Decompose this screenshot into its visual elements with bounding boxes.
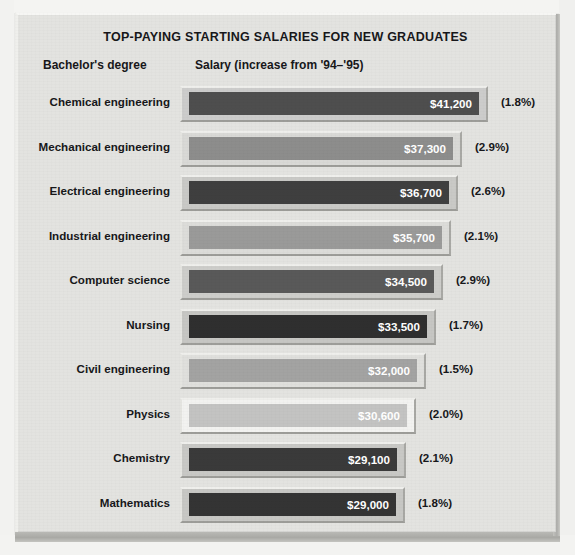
bar-value-label: $33,500 <box>378 320 420 333</box>
scan-margin-left <box>0 0 14 555</box>
bar-row-label: Mathematics <box>15 496 170 509</box>
bar: $30,600 <box>180 398 416 434</box>
bar-face: $35,700 <box>189 226 442 249</box>
bar-face: $37,300 <box>189 137 453 160</box>
bar-row: Computer science$34,500(2.9%) <box>15 260 556 305</box>
bar-row: Industrial engineering$35,700(2.1%) <box>15 216 556 261</box>
increase-percent-label: (1.8%) <box>501 95 535 108</box>
bar: $41,200 <box>180 86 488 122</box>
bar-rows: Chemical engineering$41,200(1.8%)Mechani… <box>15 82 556 527</box>
bar: $34,500 <box>180 264 443 300</box>
bar-row: Chemical engineering$41,200(1.8%) <box>15 82 556 127</box>
bar-value-label: $29,100 <box>348 453 390 466</box>
increase-percent-label: (1.8%) <box>418 496 452 509</box>
bar-row: Mathematics$29,000(1.8%) <box>15 483 556 528</box>
bar: $33,500 <box>180 309 436 345</box>
increase-percent-label: (2.9%) <box>456 273 490 286</box>
bar-face: $36,700 <box>189 181 449 204</box>
bar: $37,300 <box>180 131 462 167</box>
bar-row-label: Civil engineering <box>15 362 170 375</box>
bar-row-label: Mechanical engineering <box>15 140 170 153</box>
bar-value-label: $32,000 <box>368 364 410 377</box>
bar-face: $34,500 <box>189 270 434 293</box>
bar-face: $33,500 <box>189 315 427 338</box>
increase-percent-label: (1.7%) <box>449 318 483 331</box>
increase-percent-label: (2.1%) <box>419 451 453 464</box>
bar-row: Chemistry$29,100(2.1%) <box>15 438 556 483</box>
bar: $29,000 <box>180 487 405 523</box>
bar-row: Nursing$33,500(1.7%) <box>15 305 556 350</box>
chart-page: TOP-PAYING STARTING SALARIES FOR NEW GRA… <box>0 0 575 555</box>
bar-row-label: Computer science <box>15 273 170 286</box>
frame-bottom-bevel <box>15 532 560 542</box>
bar-row-label: Physics <box>15 407 170 420</box>
bar-value-label: $34,500 <box>385 275 427 288</box>
header-salary: Salary (increase from '94–'95) <box>195 58 363 72</box>
bar-face: $30,600 <box>189 404 407 427</box>
column-headers: Bachelor's degreeSalary (increase from '… <box>43 58 363 72</box>
increase-percent-label: (2.6%) <box>471 184 505 197</box>
bar-face: $29,000 <box>189 493 396 516</box>
bar-face: $41,200 <box>189 92 479 115</box>
bar-value-label: $37,300 <box>404 142 446 155</box>
bar: $35,700 <box>180 220 451 256</box>
scan-margin-right <box>559 0 575 555</box>
bar-row: Civil engineering$32,000(1.5%) <box>15 349 556 394</box>
bar-row-label: Electrical engineering <box>15 184 170 197</box>
bar-face: $29,100 <box>189 448 397 471</box>
bar-face: $32,000 <box>189 359 417 382</box>
bar: $36,700 <box>180 175 458 211</box>
header-bachelors-degree: Bachelor's degree <box>43 58 195 72</box>
bar-row-label: Nursing <box>15 318 170 331</box>
bar-row: Mechanical engineering$37,300(2.9%) <box>15 127 556 172</box>
chart-plate: TOP-PAYING STARTING SALARIES FOR NEW GRA… <box>15 12 556 532</box>
increase-percent-label: (2.1%) <box>464 229 498 242</box>
bar-row-label: Chemistry <box>15 451 170 464</box>
bar-row: Physics$30,600(2.0%) <box>15 394 556 439</box>
increase-percent-label: (2.0%) <box>429 407 463 420</box>
increase-percent-label: (1.5%) <box>439 362 473 375</box>
bar: $29,100 <box>180 442 406 478</box>
bar-row-label: Chemical engineering <box>15 95 170 108</box>
bar: $32,000 <box>180 353 426 389</box>
bar-row: Electrical engineering$36,700(2.6%) <box>15 171 556 216</box>
bar-value-label: $35,700 <box>393 231 435 244</box>
increase-percent-label: (2.9%) <box>475 140 509 153</box>
chart-title: TOP-PAYING STARTING SALARIES FOR NEW GRA… <box>15 30 556 44</box>
bar-value-label: $30,600 <box>358 409 400 422</box>
bar-value-label: $41,200 <box>430 97 472 110</box>
bar-value-label: $36,700 <box>400 186 442 199</box>
bar-row-label: Industrial engineering <box>15 229 170 242</box>
bar-value-label: $29,000 <box>347 498 389 511</box>
